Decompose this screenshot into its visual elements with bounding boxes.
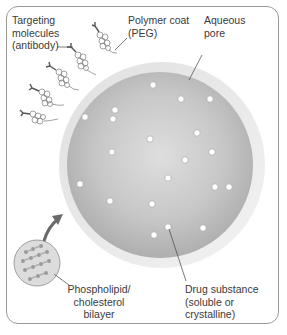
label-targeting: Targeting molecules (antibody) <box>12 14 59 52</box>
bilayer-inset <box>14 240 60 286</box>
label-bilayer: Phospholipid/ cholesterol bilayer <box>64 283 134 321</box>
label-polymer-coat: Polymer coat (PEG) <box>128 14 189 39</box>
label-aqueous-pore: Aqueous pore <box>204 14 245 39</box>
leader-polymer <box>115 38 127 50</box>
liposome-core <box>67 72 253 258</box>
label-drug-substance: Drug substance (soluble or crystalline) <box>185 283 287 321</box>
curved-arrow-icon <box>44 219 58 241</box>
